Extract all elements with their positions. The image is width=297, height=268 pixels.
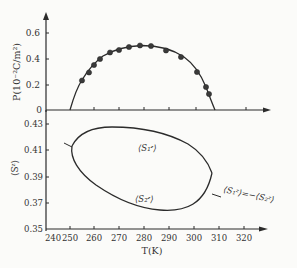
svg-text:250: 250 — [62, 233, 78, 243]
p-tick-0.2: 0.2 — [26, 80, 40, 90]
svg-text:240: 240 — [45, 233, 61, 243]
s-tick-0.35: 0.35 — [24, 224, 43, 234]
s-tick-0.43: 0.43 — [24, 119, 43, 129]
s-axis-label: ⟨Sᶻ⟩ — [10, 160, 20, 176]
svg-text:280: 280 — [136, 233, 152, 243]
svg-text:300: 300 — [186, 233, 202, 243]
s-tick-0.39: 0.39 — [24, 172, 43, 182]
svg-text:310: 310 — [211, 233, 227, 243]
t-axis-arrow-icon — [259, 227, 268, 232]
p-data-points — [79, 43, 211, 97]
equality-label: ⟨S₁ᶻ⟩=−⟨S₂ᶻ⟩ — [223, 184, 276, 205]
p-fit-curve — [70, 46, 215, 111]
s-tick-0.37: 0.37 — [24, 198, 43, 208]
lower-panel — [46, 110, 268, 232]
p-axis-arrow-icon — [43, 12, 49, 20]
lower-transition-mark — [64, 143, 72, 147]
p-axis-label: P(10⁻²C/m²) — [11, 43, 22, 101]
upper-transition-mark — [212, 194, 221, 197]
upper-t-axis-arrow-icon — [263, 108, 271, 113]
t-tick-labels: 240 250 260 270 280 290 300 310 320 — [45, 233, 252, 243]
p-tick-0: 0 — [36, 105, 42, 115]
s1-label: ⟨S₁ᶻ⟩ — [138, 143, 157, 153]
p-tick-0.6: 0.6 — [26, 28, 41, 38]
upper-panel — [43, 12, 271, 113]
svg-text:270: 270 — [111, 233, 127, 243]
svg-text:320: 320 — [236, 233, 252, 243]
svg-text:260: 260 — [86, 233, 102, 243]
s-tick-0.41: 0.41 — [24, 145, 43, 155]
p-tick-0.4: 0.4 — [26, 54, 41, 64]
s2-label: ⟨S₂ᶻ⟩ — [135, 194, 154, 204]
t-axis-label: T(K) — [142, 245, 163, 256]
figure: 0.6 0.4 0.2 0 P(10⁻²C/m²) 0.43 0.41 0.39… — [0, 0, 297, 268]
svg-text:290: 290 — [161, 233, 177, 243]
